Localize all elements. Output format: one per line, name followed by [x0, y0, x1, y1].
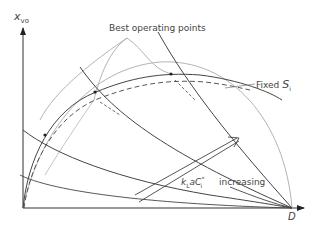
y-axis-label-sub: vo — [21, 17, 29, 25]
best-point-marker-3 — [43, 133, 46, 136]
tangent-dash-2 — [175, 80, 195, 100]
kla-c-sub: i — [200, 182, 202, 189]
increasing-text: increasing — [219, 177, 265, 187]
x-axis-label: D — [288, 212, 296, 222]
diagram-canvas — [0, 0, 323, 229]
best-point-marker-1 — [93, 90, 96, 93]
fixed-text: Fixed — [256, 80, 279, 90]
kla-label: kLaC*i — [181, 176, 202, 189]
increasing-label: increasing — [219, 178, 265, 187]
best-operating-points-text: Best operating points — [109, 23, 206, 33]
x-axis-label-text: D — [288, 211, 296, 222]
operating-line-1 — [23, 130, 292, 208]
y-axis-label: xvo — [14, 11, 29, 25]
fixed-subscript: i — [289, 85, 291, 92]
best-points-leader-outer — [40, 38, 127, 120]
best-point-marker-2 — [169, 72, 172, 75]
best-operating-points-label: Best operating points — [109, 24, 206, 33]
productivity-curve-dashed — [24, 81, 250, 208]
increase-arrow-line-b — [139, 141, 239, 202]
fixed-si-label: Fixed Si — [256, 79, 291, 92]
kla-c-sup: * — [201, 175, 204, 182]
